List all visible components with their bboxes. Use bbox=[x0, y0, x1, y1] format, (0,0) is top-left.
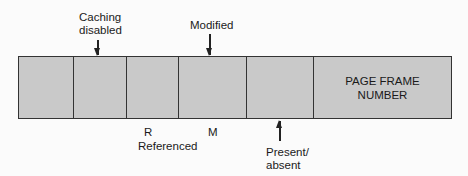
caching-disabled-arrow-icon bbox=[97, 40, 99, 55]
page-table-entry-box: PAGE FRAME NUMBER bbox=[18, 56, 452, 119]
page-table-entry-diagram: Caching disabled Modified PAGE FRAME NUM… bbox=[0, 0, 468, 176]
field-page-frame-number: PAGE FRAME NUMBER bbox=[314, 57, 451, 118]
caching-label-line1: Caching bbox=[79, 11, 122, 24]
modified-arrow-icon bbox=[209, 34, 211, 55]
r-bit-label: R bbox=[144, 126, 152, 139]
page-frame-number-line2: NUMBER bbox=[345, 88, 420, 102]
field-referenced bbox=[127, 57, 179, 118]
field-caching-disabled bbox=[74, 57, 127, 118]
present-label-line1: Present/ bbox=[266, 146, 309, 159]
page-frame-number-line1: PAGE FRAME bbox=[345, 74, 420, 88]
present-absent-arrow-icon bbox=[279, 121, 281, 141]
field-protection bbox=[247, 57, 314, 118]
caching-label-line2: disabled bbox=[79, 24, 122, 37]
present-label-line2: absent bbox=[266, 159, 309, 172]
referenced-label: Referenced bbox=[138, 140, 197, 153]
field-modified bbox=[179, 57, 247, 118]
field-unused bbox=[19, 57, 74, 118]
caching-disabled-label: Caching disabled bbox=[79, 11, 122, 37]
m-bit-label: M bbox=[208, 126, 218, 139]
present-absent-label: Present/ absent bbox=[266, 146, 309, 172]
modified-label: Modified bbox=[190, 19, 233, 32]
